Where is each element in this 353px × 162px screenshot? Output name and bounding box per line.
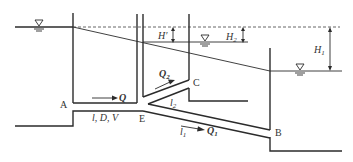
flow-arrow-main: [92, 96, 118, 101]
label-point-b: B: [275, 127, 282, 138]
branch-2-pipe-bottom: [148, 88, 189, 104]
label-length-branch-1: l1: [180, 126, 186, 139]
flow-arrow-branch-2: [155, 80, 175, 89]
dimension-h1: [328, 27, 332, 71]
dimension-h2: [241, 27, 245, 43]
dimension-h-prime: [171, 27, 175, 43]
label-head-loss-prime: H′: [157, 30, 168, 41]
label-flow-branch-2: Q2: [159, 68, 170, 81]
label-head-h1: H1: [313, 44, 325, 57]
label-length-branch-2: l2: [170, 97, 177, 110]
label-point-a: A: [60, 99, 68, 110]
water-surface-icon: [200, 35, 210, 46]
label-main-pipe: l, D, V: [92, 112, 120, 123]
water-surface-icon: [34, 20, 44, 31]
branch-2-pipe-top: [143, 80, 189, 97]
water-surface-icon: [295, 64, 305, 75]
label-point-e: E: [139, 113, 145, 124]
pipe-network-diagram: A E C B l, D, V Q Q2 l2 l1 Q1 H′ H2 H1: [0, 0, 353, 162]
main-pipe-bottom: [15, 111, 143, 126]
middle-reservoir-floor: [189, 88, 248, 101]
label-flow-main: Q: [119, 92, 126, 103]
label-point-c: C: [193, 77, 200, 88]
downstream-reservoir-floor: [270, 137, 342, 151]
hydraulic-grade-line-main: [73, 27, 140, 42]
